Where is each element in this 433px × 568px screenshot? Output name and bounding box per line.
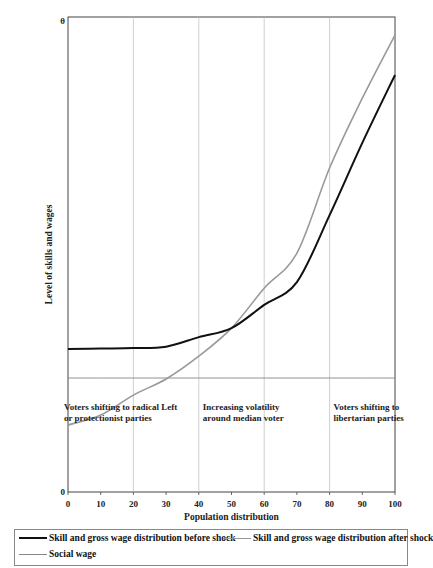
- series-before-shock: [68, 75, 395, 349]
- x-tick-label: 0: [66, 499, 71, 509]
- legend-swatch-after: [223, 538, 251, 539]
- legend-item-before: Skill and gross wage distribution before…: [19, 533, 236, 543]
- series-after-shock: [68, 35, 395, 425]
- x-tick-label: 90: [358, 499, 368, 509]
- x-tick-label: 40: [194, 499, 204, 509]
- annotation-libertarian-voters: libertarian parties: [334, 413, 405, 423]
- x-tick-label: 10: [96, 499, 106, 509]
- legend-swatch-before: [19, 537, 47, 539]
- x-tick-label: 80: [325, 499, 335, 509]
- annotation-median-voter: Increasing volatility: [203, 402, 280, 412]
- x-tick-label: 60: [260, 499, 270, 509]
- annotation-left-voters: Voters shifting to radical Left: [64, 402, 177, 412]
- x-tick-label: 20: [129, 499, 139, 509]
- legend-label-social: Social wage: [49, 549, 96, 559]
- x-tick-label: 70: [292, 499, 302, 509]
- legend-label-after: Skill and gross wage distribution after …: [253, 533, 433, 543]
- legend-item-social: Social wage: [19, 549, 96, 559]
- x-tick-label: 100: [388, 499, 402, 509]
- x-tick-label: 30: [162, 499, 172, 509]
- legend-item-after: Skill and gross wage distribution after …: [223, 533, 433, 543]
- annotation-left-voters: or protectionist parties: [64, 413, 152, 423]
- chart-legend: Skill and gross wage distribution before…: [14, 529, 408, 566]
- legend-swatch-social: [19, 554, 47, 555]
- y-axis-title: Level of skills and wages: [44, 204, 54, 304]
- annotation-median-voter: around median voter: [203, 413, 284, 423]
- y-tick-label: θ: [60, 16, 65, 26]
- x-axis-title: Population distribution: [184, 512, 279, 522]
- x-tick-label: 50: [227, 499, 237, 509]
- legend-label-before: Skill and gross wage distribution before…: [49, 533, 236, 543]
- annotation-libertarian-voters: Voters shifting to: [334, 402, 400, 412]
- y-tick-label: 0: [61, 487, 66, 497]
- chart-plot: 01020304050607080901000θPopulation distr…: [0, 0, 420, 528]
